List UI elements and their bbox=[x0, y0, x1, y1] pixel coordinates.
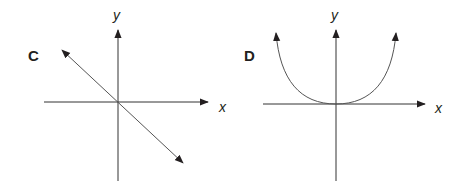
panel-d-label: D bbox=[244, 47, 255, 64]
x-axis-label: x bbox=[218, 99, 227, 115]
panel-c: C y x bbox=[28, 7, 227, 181]
y-axis-label: y bbox=[330, 7, 339, 23]
line-graph bbox=[62, 50, 183, 163]
y-axis-label: y bbox=[112, 7, 121, 23]
x-axis-label: x bbox=[434, 100, 443, 116]
graphs-canvas: C y x D y x bbox=[0, 0, 466, 191]
diagram: C y x D y x bbox=[0, 0, 466, 191]
panel-d: D y x bbox=[244, 7, 443, 181]
panel-c-label: C bbox=[28, 47, 39, 64]
